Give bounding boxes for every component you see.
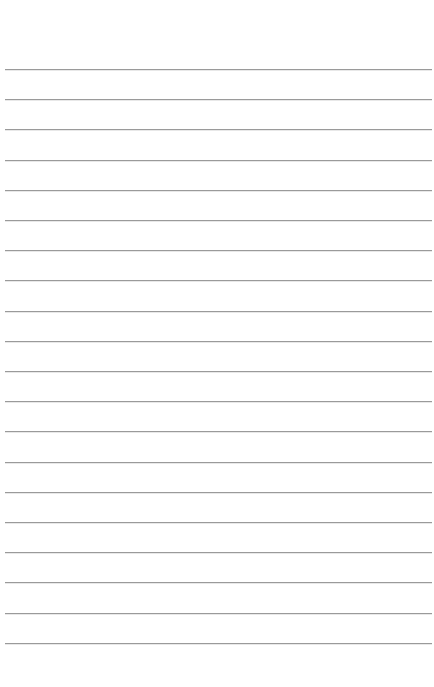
ruled-line	[5, 280, 432, 281]
ruled-line	[5, 311, 432, 312]
ruled-line	[5, 250, 432, 251]
ruled-line	[5, 552, 432, 553]
ruled-line	[5, 371, 432, 372]
ruled-line	[5, 341, 432, 342]
ruled-line	[5, 220, 432, 221]
ruled-line	[5, 401, 432, 402]
ruled-line	[5, 69, 432, 70]
ruled-line	[5, 190, 432, 191]
ruled-line	[5, 643, 432, 644]
lined-paper-page	[0, 0, 434, 687]
ruled-line	[5, 522, 432, 523]
ruled-line	[5, 582, 432, 583]
ruled-line	[5, 129, 432, 130]
ruled-line	[5, 613, 432, 614]
ruled-line	[5, 160, 432, 161]
ruled-line	[5, 462, 432, 463]
ruled-line	[5, 99, 432, 100]
ruled-line	[5, 431, 432, 432]
ruled-line	[5, 492, 432, 493]
